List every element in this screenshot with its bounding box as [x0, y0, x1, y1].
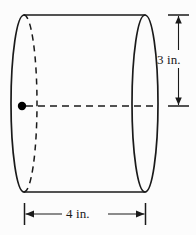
width-dim-arrow-right: [136, 210, 145, 217]
right-ellipse: [132, 15, 158, 192]
width-dimension-label: 4 in.: [66, 206, 90, 222]
marked-point-dot: [18, 102, 26, 110]
height-dim-arrow-down: [175, 98, 182, 106]
cylinder-drawing: [0, 0, 196, 235]
cylinder-figure: 3 in. 4 in.: [0, 0, 196, 235]
left-ellipse-dashed-half: [24, 15, 37, 192]
height-dim-arrow-up: [175, 16, 182, 24]
height-dimension-label: 3 in.: [157, 52, 181, 68]
width-dim-arrow-left: [26, 210, 35, 217]
